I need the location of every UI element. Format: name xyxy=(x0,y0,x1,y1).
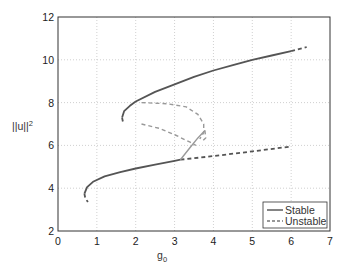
x-tick-label: 5 xyxy=(249,235,255,247)
y-tick-label: 4 xyxy=(48,182,54,194)
y-tick-label: 6 xyxy=(48,139,54,151)
x-axis-label: g0 xyxy=(157,249,167,264)
x-tick-label: 0 xyxy=(55,235,61,247)
series-line xyxy=(180,147,291,160)
y-axis-label: ||u||2 xyxy=(12,119,33,132)
y-tick-label: 8 xyxy=(48,97,54,109)
plot-frame xyxy=(58,17,330,231)
series-line xyxy=(142,103,204,139)
chart: 0123456724681012 g0 ||u||2 Stable Unstab… xyxy=(0,0,350,272)
y-tick-label: 12 xyxy=(42,11,54,23)
x-tick-label: 2 xyxy=(133,235,139,247)
legend-unstable-label: Unstable xyxy=(285,215,327,227)
series-line xyxy=(122,118,123,124)
x-tick-label: 1 xyxy=(94,235,100,247)
y-tick-label: 10 xyxy=(42,54,54,66)
grid xyxy=(58,17,330,231)
y-tick-label: 2 xyxy=(48,225,54,237)
series-line xyxy=(142,124,196,145)
legend: Stable Unstable xyxy=(263,202,327,228)
series-lines xyxy=(84,47,306,202)
series-line xyxy=(291,47,307,51)
x-tick-label: 3 xyxy=(172,235,178,247)
x-tick-label: 4 xyxy=(211,235,217,247)
series-line xyxy=(84,194,88,203)
x-tick-label: 6 xyxy=(288,235,294,247)
x-tick-label: 7 xyxy=(327,235,333,247)
series-line xyxy=(122,51,291,117)
